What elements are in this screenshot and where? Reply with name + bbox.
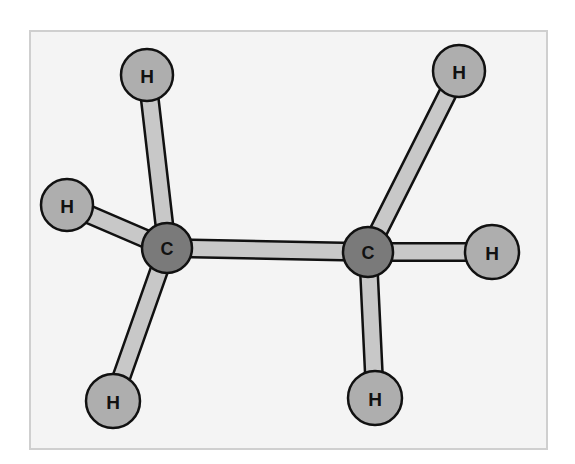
hydrogen-atom: H xyxy=(86,374,140,428)
atom-label: H xyxy=(60,196,74,217)
atom-label: H xyxy=(452,62,466,83)
atom-label: H xyxy=(368,389,382,410)
atom-label: H xyxy=(140,66,154,87)
hydrogen-atom: H xyxy=(433,45,485,97)
molecule-diagram: CCHHHHHH xyxy=(0,0,575,464)
hydrogen-atom: H xyxy=(41,179,93,231)
hydrogen-atom: H xyxy=(465,225,519,279)
atom-label: H xyxy=(106,392,120,413)
bond-c-c xyxy=(167,248,368,252)
hydrogen-atom: H xyxy=(121,49,173,101)
atom-label: C xyxy=(362,243,375,263)
atom-label: C xyxy=(161,239,174,259)
atom-label: H xyxy=(485,243,499,264)
hydrogen-atom: H xyxy=(348,371,402,425)
carbon-atom: C xyxy=(142,223,192,273)
carbon-atom: C xyxy=(343,227,393,277)
